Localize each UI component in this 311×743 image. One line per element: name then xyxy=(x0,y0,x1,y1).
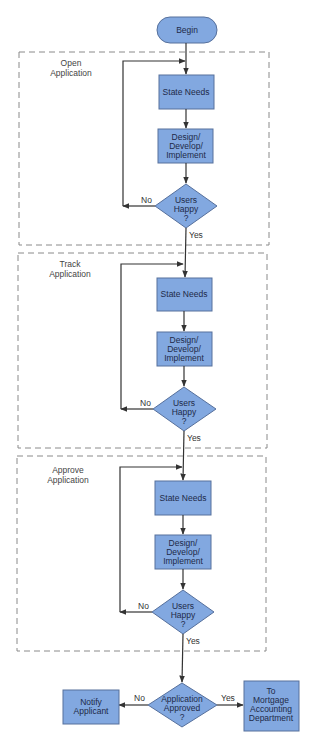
no-label: No xyxy=(134,693,145,703)
section-open-application: Open Application State Needs Design/ Dev… xyxy=(19,52,269,245)
design-develop-implement-node: Design/ Develop/ Implement xyxy=(155,535,211,569)
section-title-line: Application xyxy=(49,269,91,279)
section-title-line: Application xyxy=(47,475,89,485)
flowchart: Begin Open Application State Needs Desig… xyxy=(0,0,311,743)
edge-section3-to-final xyxy=(182,634,183,682)
users-happy-decision: Users Happy ? xyxy=(152,590,214,634)
decision-label-line: ? xyxy=(184,213,189,223)
design-label-line: Implement xyxy=(164,353,204,363)
section-track-application-border xyxy=(18,253,267,448)
decision-label-line: ? xyxy=(180,712,185,722)
section-title-line: Track xyxy=(60,259,82,269)
no-label: No xyxy=(141,195,152,205)
yes-label: Yes xyxy=(221,693,235,703)
yes-label: Yes xyxy=(189,230,203,240)
notify-label-line: Applicant xyxy=(74,706,110,716)
mortgage-label-line: Department xyxy=(249,713,294,723)
section-title-line: Application xyxy=(50,68,92,78)
users-happy-decision: Users Happy ? xyxy=(155,184,217,228)
edge-section2-to-section3 xyxy=(183,431,184,480)
design-label-line: Implement xyxy=(166,150,206,160)
decision-label-line: ? xyxy=(181,619,186,629)
state-needs-node: State Needs xyxy=(155,481,211,515)
section-approve-application: Approve Application State Needs Design/ … xyxy=(17,456,266,651)
application-approved-decision: Application Approved ? xyxy=(148,683,217,727)
section-title-line: Approve xyxy=(52,465,84,475)
decision-label-line: ? xyxy=(182,416,187,426)
state-needs-label: State Needs xyxy=(163,87,210,97)
section-track-application: Track Application State Needs Design/ De… xyxy=(18,253,267,448)
design-label-line: Implement xyxy=(163,556,203,566)
yes-label: Yes xyxy=(186,636,200,646)
section-open-application-border xyxy=(19,52,269,245)
design-develop-implement-node: Design/ Develop/ Implement xyxy=(158,129,213,163)
section-title-line: Open xyxy=(61,58,82,68)
edge-section1-to-section2 xyxy=(185,228,186,277)
mortgage-accounting-node: To Mortgage Accounting Department xyxy=(244,681,299,731)
begin-node: Begin xyxy=(157,17,217,43)
state-needs-label: State Needs xyxy=(161,289,208,299)
state-needs-node: State Needs xyxy=(159,75,214,109)
design-develop-implement-node: Design/ Develop/ Implement xyxy=(157,332,212,366)
state-needs-node: State Needs xyxy=(157,278,212,311)
section-approve-application-border xyxy=(17,456,266,651)
notify-applicant-node: Notify Applicant xyxy=(63,690,119,724)
no-label: No xyxy=(138,601,149,611)
yes-label: Yes xyxy=(187,433,201,443)
state-needs-label: State Needs xyxy=(160,493,207,503)
no-label: No xyxy=(140,398,151,408)
begin-label: Begin xyxy=(176,25,198,35)
users-happy-decision: Users Happy ? xyxy=(153,387,216,431)
